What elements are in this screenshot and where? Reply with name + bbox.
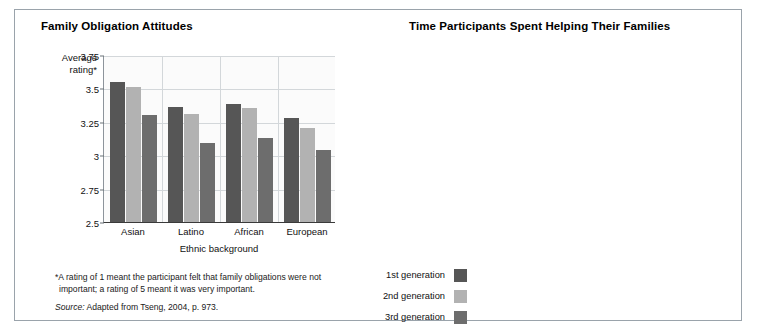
bar bbox=[226, 104, 241, 222]
bar-group: Asian bbox=[104, 56, 162, 222]
legend-item-label: 3rd generation bbox=[367, 312, 445, 322]
bar bbox=[300, 128, 315, 222]
legend-swatch-1st-generation bbox=[454, 269, 467, 282]
legend-item: 1st generation bbox=[367, 266, 467, 284]
x-axis-title-left: Ethnic background bbox=[103, 243, 335, 254]
bar bbox=[242, 108, 257, 222]
chart-panel-time-spent-helping-families: Time Participants Spent Helping Their Fa… bbox=[383, 10, 743, 260]
y-axis-tick-label: 2.75 bbox=[81, 184, 100, 195]
chart-panel-family-obligation-attitudes: Family Obligation Attitudes Average rati… bbox=[15, 10, 379, 260]
source-label: Source: bbox=[55, 302, 85, 312]
bar-group: African bbox=[220, 56, 278, 222]
y-axis-tick-label: 3.75 bbox=[81, 51, 100, 62]
bar bbox=[316, 150, 331, 222]
plot-area-left: 3.753.53.2532.752.5AsianLatinoAfricanEur… bbox=[103, 56, 335, 223]
y-axis-tick-label: 3.25 bbox=[81, 117, 100, 128]
y-axis-caption-left-line-2: rating* bbox=[41, 64, 97, 76]
footnote-block: *A rating of 1 meant the participant fel… bbox=[55, 272, 345, 314]
x-axis-category-label: Latino bbox=[162, 226, 220, 237]
x-axis-category-label: Asian bbox=[104, 226, 162, 237]
y-axis-tick-label: 3.5 bbox=[86, 84, 99, 95]
bar bbox=[110, 82, 125, 222]
figure-frame: Family Obligation Attitudes Average rati… bbox=[14, 9, 742, 321]
bar bbox=[142, 115, 157, 222]
legend-swatch-2nd-generation bbox=[454, 290, 467, 303]
bar bbox=[200, 143, 215, 222]
legend-item: 2nd generation bbox=[367, 287, 467, 305]
y-axis-tick-mark bbox=[100, 223, 104, 224]
bar-group: European bbox=[278, 56, 336, 222]
bar-group: Latino bbox=[162, 56, 220, 222]
source-line: Source: Adapted from Tseng, 2004, p. 973… bbox=[55, 302, 345, 314]
legend-item: 3rd generation bbox=[367, 308, 467, 326]
source-text: Adapted from Tseng, 2004, p. 973. bbox=[85, 302, 219, 312]
bar bbox=[184, 114, 199, 222]
chart-title-left: Family Obligation Attitudes bbox=[41, 20, 193, 32]
bar bbox=[258, 138, 273, 222]
bar bbox=[126, 87, 141, 222]
legend-item-label: 1st generation bbox=[367, 270, 445, 280]
x-axis-category-label: African bbox=[220, 226, 278, 237]
y-axis-tick-label: 3 bbox=[94, 151, 99, 162]
bar bbox=[168, 107, 183, 222]
legend-item-label: 2nd generation bbox=[367, 291, 445, 301]
y-axis-tick-label: 2.5 bbox=[86, 218, 99, 229]
chart-title-right: Time Participants Spent Helping Their Fa… bbox=[409, 20, 670, 32]
legend-swatch-3rd-generation bbox=[454, 311, 467, 324]
bar bbox=[284, 118, 299, 222]
footnote-text: *A rating of 1 meant the participant fel… bbox=[55, 272, 345, 295]
x-axis-category-label: European bbox=[278, 226, 336, 237]
chart-legend: 1st generation2nd generation3rd generati… bbox=[367, 266, 467, 329]
